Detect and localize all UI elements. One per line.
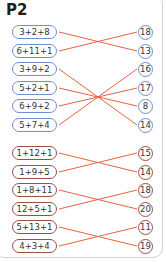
expression-pill[interactable]: 5+7+4 [12, 118, 57, 132]
answer-circle[interactable]: 14 [138, 165, 153, 180]
expression-pill[interactable]: 4+3+4 [12, 239, 57, 253]
expression-pill[interactable]: 1+8+11 [12, 183, 57, 197]
expression-pill[interactable]: 1+9+5 [12, 165, 57, 179]
answer-circle[interactable]: 18 [138, 25, 153, 40]
answer-circle[interactable]: 20 [138, 202, 153, 217]
answer-circle[interactable]: 18 [138, 183, 153, 198]
expression-pill[interactable]: 12+5+1 [12, 202, 57, 216]
answer-circle[interactable]: 11 [138, 220, 153, 235]
expression-pill[interactable]: 6+11+1 [12, 44, 57, 58]
expression-pill[interactable]: 5+13+1 [12, 220, 57, 234]
answer-circle[interactable]: 15 [138, 146, 153, 161]
expression-pill[interactable]: 5+2+1 [12, 81, 57, 95]
expression-pill[interactable]: 3+9+2 [12, 62, 57, 76]
answer-circle[interactable]: 8 [138, 99, 153, 114]
answer-circle[interactable]: 13 [138, 44, 153, 59]
answer-circle[interactable]: 19 [138, 239, 153, 254]
answer-circle[interactable]: 17 [138, 81, 153, 96]
expression-pill[interactable]: 3+2+8 [12, 25, 57, 39]
expression-pill[interactable]: 1+12+1 [12, 146, 57, 160]
answer-circle[interactable]: 14 [138, 118, 153, 133]
expression-pill[interactable]: 6+9+2 [12, 99, 57, 113]
answer-circle[interactable]: 16 [138, 62, 153, 77]
